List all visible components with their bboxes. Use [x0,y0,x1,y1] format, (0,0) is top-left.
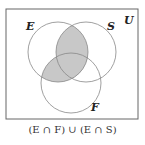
universe-label: U [124,14,134,27]
set-e-label: E [26,20,34,33]
caption: (E ∩ F) ∪ (E ∩ S) [0,124,145,135]
set-s-label: S [107,20,115,33]
set-f-label: F [91,101,99,114]
venn-diagram: E S F U (E ∩ F) ∪ (E ∩ S) [0,0,145,145]
